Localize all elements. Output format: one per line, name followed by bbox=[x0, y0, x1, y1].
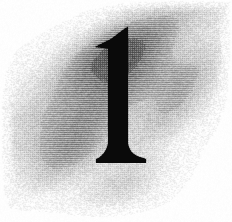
drop-cap-canvas bbox=[0, 0, 232, 222]
decorative-drop-cap-figure: 1 bbox=[0, 0, 232, 222]
